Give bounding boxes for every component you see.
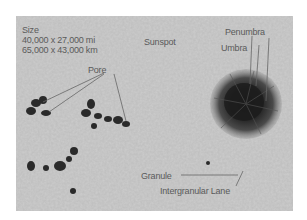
label-sunspot: Sunspot: [144, 37, 176, 47]
sunspot-photo: Size 40,000 x 27,000 mi 65,000 x 43,000 …: [16, 16, 293, 211]
sunspot: [210, 69, 282, 139]
label-intergranular-lane: Intergranular Lane: [160, 186, 230, 196]
label-umbra: Umbra: [221, 43, 247, 53]
size-kilometers: 65,000 x 43,000 km: [22, 45, 97, 55]
size-heading: Size: [22, 25, 39, 35]
label-granule: Granule: [141, 171, 172, 181]
size-miles: 40,000 x 27,000 mi: [22, 35, 95, 45]
label-pore: Pore: [88, 65, 106, 75]
label-penumbra: Penumbra: [225, 27, 265, 37]
